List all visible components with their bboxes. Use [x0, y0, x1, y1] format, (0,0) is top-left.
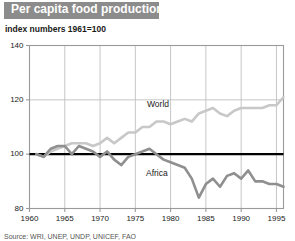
data-series: [37, 97, 284, 198]
x-tick-1965: 1965: [50, 214, 80, 223]
series-label-africa: Africa: [146, 168, 168, 178]
x-tick-1985: 1985: [191, 214, 221, 223]
x-tick-1990: 1990: [226, 214, 256, 223]
x-tick-1960: 1960: [15, 214, 45, 223]
source-note: Source: WRI, UNEP, UNDP, UNICEF, FAO: [4, 233, 136, 240]
plot-frame: [30, 46, 284, 209]
series-label-world: World: [147, 99, 169, 109]
chart-svg: [0, 0, 295, 241]
y-tick-140: 140: [2, 41, 24, 50]
chart-figure: Per capita food production index numbers…: [0, 0, 295, 241]
plot-area: [0, 0, 295, 241]
x-tick-1975: 1975: [120, 214, 150, 223]
y-tick-120: 120: [2, 95, 24, 104]
gridlines: [30, 46, 284, 209]
x-tick-1995: 1995: [261, 214, 291, 223]
x-tick-1970: 1970: [85, 214, 115, 223]
x-tick-1980: 1980: [156, 214, 186, 223]
tick-marks: [26, 46, 276, 213]
y-tick-100: 100: [2, 149, 24, 158]
y-tick-80: 80: [2, 204, 24, 213]
